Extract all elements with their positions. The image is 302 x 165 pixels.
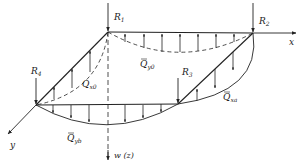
shear-distribution-bottom [36,104,178,125]
label-Qyb: Qyb [67,133,82,145]
svg-text:Qyb: Qyb [67,133,82,145]
z-axis-label: w (z) [114,151,134,160]
svg-text:Qx0: Qx0 [82,79,97,90]
z-axis: w (z) [108,32,134,160]
svg-text:R4: R4 [30,66,42,77]
x-axis: x [253,33,296,47]
svg-text:Qxa: Qxa [223,92,238,103]
reaction-R1: R1 [108,3,125,31]
svg-text:R3: R3 [181,67,193,78]
svg-text:R2: R2 [258,16,270,27]
x-axis-label: x [289,37,294,47]
svg-text:Qy0: Qy0 [140,59,155,71]
svg-text:R1: R1 [113,12,125,23]
label-Qx0: Qx0 [82,79,97,90]
label-Qxa: Qxa [223,92,238,103]
reaction-R4: R4 [30,66,42,104]
label-Qy0: Qy0 [140,59,155,71]
plate-diagram: x y w (z) [0,0,302,165]
y-axis: y [8,105,36,150]
shear-distribution-top [108,32,253,52]
y-axis-label: y [9,140,16,150]
reaction-R2: R2 [253,3,270,32]
